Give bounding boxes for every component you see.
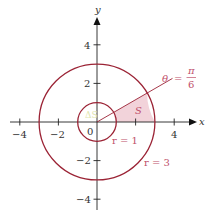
x-axis-arrow-icon: [189, 119, 197, 126]
x-tick-label: −4: [12, 129, 27, 140]
region-label-s: S: [135, 105, 142, 116]
theta-numerator: π: [187, 65, 195, 76]
polar-diagram: −4 −2 4 0 4 2 −2 −4 x y θ = π 6 S ΔS r =…: [0, 0, 208, 217]
y-axis-arrow-icon: [94, 17, 101, 25]
x-axis-label: x: [199, 116, 205, 127]
y-tick-label: −2: [76, 155, 91, 166]
theta-equals: =: [174, 73, 182, 84]
x-tick-label: 4: [171, 129, 177, 140]
y-tick-label: 2: [84, 78, 90, 89]
x-tick-label: −2: [50, 129, 65, 140]
axes: [10, 22, 190, 210]
y-axis-label: y: [94, 4, 101, 15]
circle-r3-label: r = 3: [144, 157, 170, 168]
y-tick-label: 4: [84, 40, 90, 51]
theta-denominator: 6: [188, 79, 194, 90]
origin-label: 0: [87, 126, 93, 137]
theta-symbol: θ: [162, 73, 168, 84]
y-tick-label: −4: [76, 194, 91, 205]
circle-r1-label: r = 1: [112, 135, 138, 146]
faint-region-label: ΔS: [85, 110, 98, 120]
